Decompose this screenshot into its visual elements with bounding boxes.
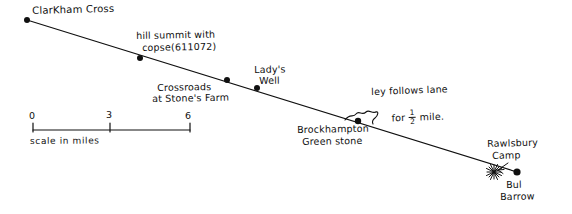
label-hill-summit-copse-line2: copse(611072): [142, 41, 216, 53]
marker-bul-barrow: [513, 168, 520, 175]
annotation-for-prefix: for: [391, 112, 408, 124]
annotation-mile-suffix: mile.: [416, 111, 444, 123]
label-bul-barrow-line2: Barrow: [500, 190, 535, 202]
label-hill-summit-copse-line1: hill summit with: [136, 29, 215, 41]
diagram-vector-layer: [0, 0, 572, 214]
starburst-icon-rawlsbury-camp: [487, 165, 502, 180]
marker-clarkham-cross: [24, 17, 30, 23]
ley-line: [27, 20, 517, 172]
label-bul-barrow-line1: Bul: [506, 179, 522, 190]
label-rawlsbury-camp-line2: Camp: [492, 149, 521, 161]
scale-bar-caption: scale in miles: [30, 135, 100, 146]
label-brockhampton-green-stone-line2: Green stone: [302, 135, 363, 147]
fraction-denominator: 2: [409, 117, 416, 125]
label-crossroads-stones-farm-line2: at Stone's Farm: [152, 92, 229, 104]
label-clarkham-cross: ClarKham Cross: [32, 3, 114, 16]
marker-crossroads-stones-farm: [224, 77, 230, 83]
scale-bar: [33, 123, 190, 132]
scale-tick-label-3: 3: [106, 109, 112, 120]
half-mile-fraction: 12: [409, 109, 417, 125]
marker-hill-summit-copse: [137, 55, 143, 61]
scale-tick-label-0: 0: [29, 110, 35, 121]
label-ladys-well-line1: Lady's: [254, 63, 286, 75]
ley-line-diagram: ClarKham Cross hill summit with copse(61…: [0, 0, 572, 214]
scale-tick-label-6: 6: [185, 110, 191, 121]
annotation-ley-follows-lane-line2: for 12 mile.: [378, 97, 445, 137]
label-ladys-well-line2: Well: [259, 75, 280, 86]
label-rawlsbury-camp-line1: Rawlsbury: [487, 137, 538, 149]
label-brockhampton-green-stone-line1: Brockhampton: [297, 123, 369, 135]
